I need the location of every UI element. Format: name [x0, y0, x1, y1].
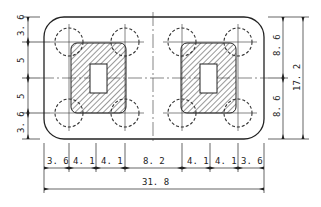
- column-pedestal-right: [181, 43, 236, 113]
- foundation-plan-drawing: 3. 6 5 5 3. 6 8. 6 8. 6 17. 2: [0, 0, 321, 207]
- dim-bottom-1: 3. 6: [47, 156, 69, 166]
- dim-bottom-3: 4. 1: [101, 156, 123, 166]
- dim-right-total: 17. 2: [292, 64, 302, 91]
- dim-bottom-4: 8. 2: [143, 156, 165, 166]
- dim-bottom-total: 31. 8: [142, 177, 169, 187]
- dim-left-3: 5: [16, 94, 26, 99]
- dim-bottom-7: 3. 6: [241, 156, 263, 166]
- dim-right-upper: 8. 6: [272, 34, 282, 56]
- opening-left: [90, 64, 107, 93]
- dim-bottom-5: 4. 1: [187, 156, 209, 166]
- dim-right-lower: 8. 6: [272, 95, 282, 117]
- dim-bottom-2: 4. 1: [73, 156, 95, 166]
- dim-bottom-6: 4. 1: [215, 156, 237, 166]
- dim-left-2: 5: [16, 58, 26, 63]
- dim-left-4: 3. 6: [16, 111, 26, 133]
- column-pedestal-left: [71, 43, 126, 113]
- opening-right: [200, 64, 217, 93]
- dim-left-1: 3. 6: [16, 14, 26, 36]
